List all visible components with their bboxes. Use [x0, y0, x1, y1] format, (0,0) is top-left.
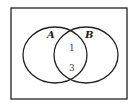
set-a-circle — [23, 27, 87, 83]
universal-set-rectangle — [11, 8, 127, 99]
intersection-value-top: 1 — [69, 43, 75, 53]
intersection-value-bottom: 3 — [69, 63, 75, 73]
set-a-label: A — [46, 29, 55, 40]
set-b-label: B — [84, 29, 93, 40]
venn-diagram: A B 1 3 — [0, 0, 138, 103]
